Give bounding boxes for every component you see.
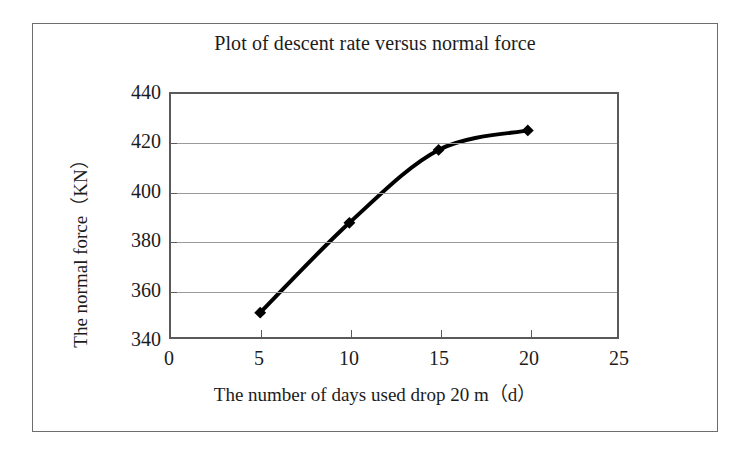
x-tick-label: 5 — [239, 348, 279, 368]
y-tick-label: 400 — [97, 181, 161, 201]
chart-title: Plot of descent rate versus normal force — [33, 32, 717, 55]
x-axis-title: The number of days used drop 20 m（d） — [33, 379, 717, 406]
x-tick-label: 25 — [599, 348, 639, 368]
y-tick-label: 420 — [97, 131, 161, 151]
plot-area — [169, 92, 619, 339]
y-axis-tick-labels: 340360380400420440 — [95, 92, 161, 339]
gridline-horizontal — [171, 143, 617, 144]
y-tick-mark — [171, 143, 177, 144]
series-line-chart — [171, 94, 617, 337]
gridline-horizontal — [171, 292, 617, 293]
y-tick-mark — [171, 193, 177, 194]
data-point-marker — [522, 125, 534, 137]
x-axis-tick-labels: 0510152025 — [169, 344, 619, 372]
y-tick-mark — [171, 292, 177, 293]
x-tick-label: 10 — [329, 348, 369, 368]
gridline-horizontal — [171, 242, 617, 243]
figure-frame: Plot of descent rate versus normal force… — [32, 23, 718, 432]
y-axis-title-label: The normal force（KN） — [65, 150, 92, 347]
y-tick-label: 340 — [97, 329, 161, 349]
y-axis-title: The normal force（KN） — [65, 124, 91, 374]
x-tick-mark — [441, 330, 442, 337]
x-tick-mark — [531, 330, 532, 337]
y-tick-label: 440 — [97, 82, 161, 102]
y-tick-label: 360 — [97, 280, 161, 300]
x-tick-mark — [351, 330, 352, 337]
x-tick-label: 15 — [419, 348, 459, 368]
x-tick-mark — [261, 330, 262, 337]
x-tick-label: 20 — [509, 348, 549, 368]
gridline-horizontal — [171, 193, 617, 194]
y-tick-label: 380 — [97, 230, 161, 250]
y-tick-mark — [171, 242, 177, 243]
series-line — [260, 130, 528, 312]
x-tick-label: 0 — [149, 348, 189, 368]
